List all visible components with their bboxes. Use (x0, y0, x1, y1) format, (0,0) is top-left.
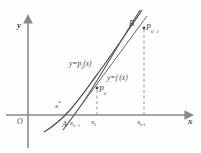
model-curve-label-text: y=p (69, 59, 81, 68)
origin-label: O (17, 118, 23, 126)
point-pk-dot (96, 87, 99, 90)
math-diagram: y x O y=pk(x) y=f (x) B Pk+1 Pk A x* xk+… (0, 0, 201, 153)
model-curve-label-tail: (x) (83, 59, 91, 68)
point-pk1-dot (143, 27, 146, 30)
tick-xkm1-label: xk-1 (137, 119, 146, 128)
function-curve (44, 10, 142, 132)
tick-xk1-label: xk+1 (70, 120, 80, 129)
x-axis-label: x (188, 117, 193, 126)
tick-xkm1-sub: k-1 (140, 122, 146, 127)
point-a-label: A (62, 121, 67, 129)
model-curve-label: y=pk(x) (69, 60, 92, 70)
tick-root-star: * (58, 100, 61, 106)
point-pk1-sub: k+1 (151, 29, 159, 34)
tick-root-label: x* (55, 101, 61, 110)
point-pk-label: Pk (99, 86, 106, 97)
point-pk-sub: k (104, 91, 106, 96)
secant-line (66, 16, 147, 126)
diagram-canvas (0, 0, 201, 153)
function-curve-label: y=f (x) (107, 74, 128, 82)
point-pk1-label: Pk+1 (146, 24, 159, 35)
tick-xk1-sub: k+1 (73, 123, 80, 128)
tick-xk-label: xk (91, 119, 96, 128)
y-axis-label: y (17, 21, 21, 30)
tick-xk-sub: k (94, 122, 96, 127)
point-b-label: B (129, 20, 134, 28)
